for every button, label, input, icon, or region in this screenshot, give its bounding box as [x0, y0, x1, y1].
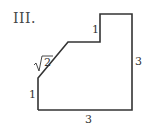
label-step: 1	[92, 24, 99, 35]
label-bottom: 3	[85, 114, 92, 125]
polygon-figure	[0, 0, 149, 132]
label-diagonal-digit: 2	[44, 57, 51, 68]
label-right: 3	[135, 56, 142, 67]
label-left: 1	[29, 89, 36, 100]
